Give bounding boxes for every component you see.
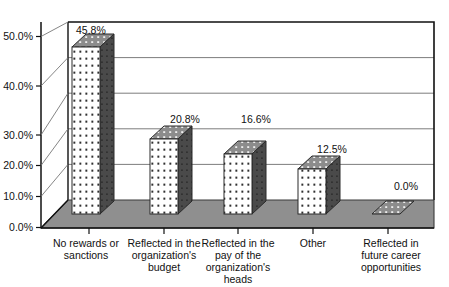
data-label-3: 12.5% [317, 143, 347, 155]
bar-chart-figure: 50.0% 40.0% 30.0% 20.0% 10.0% 0.0% [0, 0, 449, 287]
y-axis-depth-leaders [41, 22, 68, 197]
bar-side-1 [178, 126, 192, 214]
y-tick-label-40: 40.0% [3, 80, 33, 92]
bar-front-3 [298, 169, 326, 214]
x-label-4-line-2: opportunities [361, 261, 421, 273]
data-label-1: 20.8% [170, 113, 200, 125]
x-label-2-line-1: pay of the [215, 249, 261, 261]
x-axis-ticks [89, 228, 388, 234]
data-label-0: 45.8% [76, 24, 106, 36]
bar-group-1 [150, 126, 192, 214]
x-label-2-line-0: Reflected in the [202, 237, 275, 249]
y-tick-label-50: 50.0% [3, 30, 33, 42]
y-tick-label-20: 20.0% [3, 159, 33, 171]
bar-group-0 [72, 34, 114, 214]
x-label-1-line-0: Reflected in the [128, 237, 201, 249]
bar-front-2 [224, 154, 252, 214]
data-label-2: 16.6% [241, 113, 271, 125]
y-tick-label-10: 10.0% [3, 190, 33, 202]
x-label-1-line-2: budget [148, 261, 180, 273]
x-label-0-line-1: sanctions [64, 249, 108, 261]
data-label-4: 0.0% [394, 180, 418, 192]
x-label-4-line-0: Reflected in [363, 237, 419, 249]
bar-group-2 [224, 141, 266, 214]
bar-side-2 [252, 141, 266, 214]
y-axis [41, 22, 68, 228]
bar-front-0 [72, 47, 100, 214]
chart-canvas: 50.0% 40.0% 30.0% 20.0% 10.0% 0.0% [0, 0, 449, 287]
y-tick-label-0: 0.0% [9, 221, 33, 233]
x-label-4-line-1: future career [361, 249, 421, 261]
x-label-1-line-1: organization's [132, 249, 196, 261]
bar-group-3 [298, 156, 340, 214]
x-label-0-line-0: No rewards or [53, 237, 119, 249]
bar-front-1 [150, 139, 178, 214]
x-label-2-line-2: organization's [206, 261, 270, 273]
bar-side-0 [100, 34, 114, 214]
y-axis-labels: 50.0% 40.0% 30.0% 20.0% 10.0% 0.0% [3, 30, 33, 233]
x-label-2-line-3: heads [224, 273, 253, 285]
x-label-3-line-0: Other [300, 237, 327, 249]
x-axis-labels: No rewards or sanctions Reflected in the… [53, 237, 421, 285]
y-tick-label-30: 30.0% [3, 129, 33, 141]
